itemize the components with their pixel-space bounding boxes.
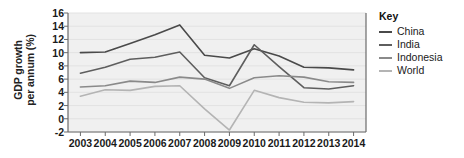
x-tick-label: 2014 [342, 138, 365, 149]
gdp-growth-line-chart: GDP growth per annum (%) -20246810121416… [0, 0, 464, 158]
legend-swatch-icon [379, 31, 392, 33]
x-tick-label: 2010 [243, 138, 266, 149]
legend: Key ChinaIndiaIndonesiaWorld [379, 10, 463, 77]
x-tick-label: 2004 [94, 138, 117, 149]
legend-entries: ChinaIndiaIndonesiaWorld [379, 25, 463, 77]
legend-item-label: World [397, 64, 424, 77]
x-tick-label: 2005 [118, 138, 141, 149]
x-tick-label: 2008 [193, 138, 216, 149]
x-tick-label: 2013 [317, 138, 340, 149]
x-tick-label: 2006 [143, 138, 166, 149]
legend-swatch-icon [379, 70, 392, 72]
legend-item-china[interactable]: China [379, 25, 463, 38]
x-axis-tick-labels: 2003200420052006200720082009201020112012… [0, 138, 464, 154]
plot-background [68, 13, 366, 132]
legend-item-label: Indonesia [397, 51, 443, 64]
x-axis-tick-marks [80, 132, 353, 136]
legend-item-label: India [397, 38, 420, 51]
x-tick-label: 2007 [168, 138, 191, 149]
legend-item-label: China [397, 25, 424, 38]
x-tick-label: 2009 [218, 138, 241, 149]
legend-swatch-icon [379, 44, 392, 46]
legend-title: Key [379, 10, 463, 22]
legend-item-indonesia[interactable]: Indonesia [379, 51, 463, 64]
legend-item-world[interactable]: World [379, 64, 463, 77]
legend-item-india[interactable]: India [379, 38, 463, 51]
x-tick-label: 2003 [69, 138, 92, 149]
x-tick-label: 2011 [268, 138, 291, 149]
x-tick-label: 2012 [292, 138, 315, 149]
legend-swatch-icon [379, 57, 392, 59]
